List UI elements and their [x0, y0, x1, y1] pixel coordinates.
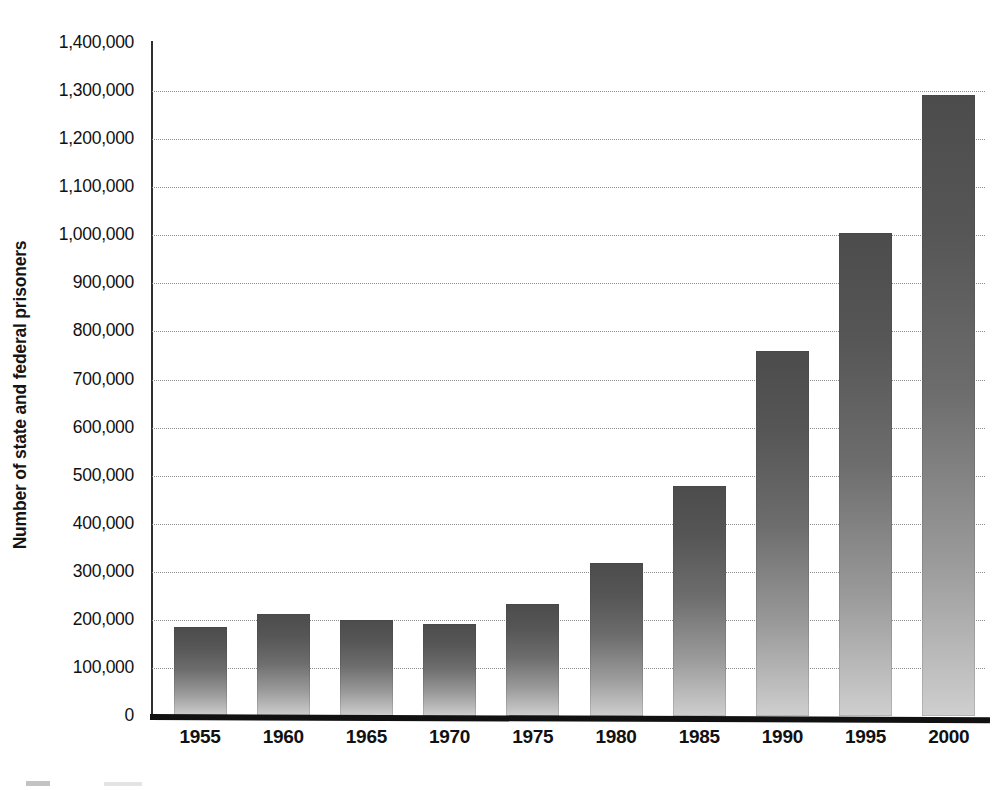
y-tick-label: 1,200,000 — [59, 128, 134, 149]
y-tick-label: 400,000 — [73, 513, 134, 534]
bar — [340, 620, 393, 716]
bar — [257, 614, 310, 716]
y-tick-label: 0 — [125, 705, 134, 726]
y-tick-label: 200,000 — [73, 609, 134, 630]
y-tick-label: 1,000,000 — [59, 224, 134, 245]
bar — [673, 486, 726, 716]
x-tick-label: 1990 — [737, 726, 827, 748]
x-tick-label: 1975 — [488, 726, 578, 748]
x-tick-label: 1985 — [654, 726, 744, 748]
gridline — [152, 91, 985, 92]
scan-artifact — [26, 781, 50, 786]
y-tick-label: 800,000 — [73, 320, 134, 341]
y-tick-label: 1,400,000 — [59, 32, 134, 53]
x-tick-label: 1960 — [238, 726, 328, 748]
y-tick-label: 1,100,000 — [59, 176, 134, 197]
bar — [922, 95, 975, 716]
plot-area — [152, 43, 985, 716]
y-tick-label: 900,000 — [73, 272, 134, 293]
x-tick-label: 1955 — [155, 726, 245, 748]
y-tick-label: 100,000 — [73, 657, 134, 678]
y-tick-label: 1,300,000 — [59, 80, 134, 101]
y-tick-label: 500,000 — [73, 465, 134, 486]
y-tick-label: 700,000 — [73, 369, 134, 390]
bar — [174, 627, 227, 716]
gridline — [152, 187, 985, 188]
gridline — [152, 139, 985, 140]
x-tick-label: 1970 — [405, 726, 495, 748]
x-tick-label: 1965 — [321, 726, 411, 748]
x-tick-label: 1995 — [821, 726, 911, 748]
bar — [756, 351, 809, 716]
scan-artifact-secondary — [104, 782, 142, 786]
y-tick-label: 600,000 — [73, 417, 134, 438]
y-tick-label: 300,000 — [73, 561, 134, 582]
x-tick-label: 1980 — [571, 726, 661, 748]
bar — [423, 624, 476, 716]
bar — [506, 604, 559, 716]
bar — [839, 233, 892, 716]
bar-chart: Number of state and federal prisoners 1,… — [0, 0, 995, 790]
bar — [590, 563, 643, 716]
y-axis-title: Number of state and federal prisoners — [0, 0, 40, 790]
x-tick-label: 2000 — [904, 726, 994, 748]
